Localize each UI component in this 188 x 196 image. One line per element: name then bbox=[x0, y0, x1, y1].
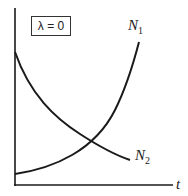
lambda-label-box: λ = 0 bbox=[31, 16, 71, 36]
lambda-label: λ = 0 bbox=[38, 19, 64, 33]
diagram-canvas bbox=[0, 0, 188, 196]
n2-label: N2 bbox=[135, 148, 150, 166]
curve-n2 bbox=[15, 52, 130, 160]
t-axis-label: t bbox=[176, 177, 180, 192]
n1-label: N1 bbox=[128, 18, 143, 36]
curve-n1 bbox=[15, 42, 139, 174]
